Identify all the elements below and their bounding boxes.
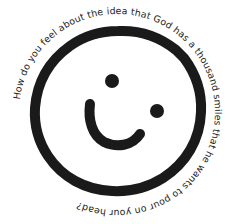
right-eye-icon	[150, 104, 164, 118]
smiley-graphic: How do you feel about the idea that God …	[0, 0, 235, 224]
left-eye-icon	[105, 74, 119, 88]
mouth-smile-icon	[90, 104, 140, 145]
smiley-svg: How do you feel about the idea that God …	[0, 0, 235, 224]
face-outline-icon	[35, 31, 201, 191]
